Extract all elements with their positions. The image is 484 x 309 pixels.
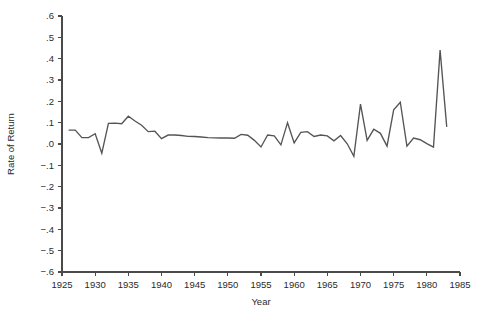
y-axis-tick-label: −.4 [41, 224, 54, 235]
y-axis-tick-label: .2 [46, 96, 54, 107]
x-axis-tick-label: 1930 [85, 279, 106, 290]
x-axis-tick-label: 1950 [217, 279, 238, 290]
y-axis-tick-label: .4 [46, 53, 54, 64]
x-axis-tick-label: 1980 [416, 279, 437, 290]
x-axis-tick-label: 1955 [250, 279, 271, 290]
x-axis-tick-label: 1940 [151, 279, 172, 290]
x-axis-tick-label: 1925 [51, 279, 72, 290]
series-line-0 [69, 50, 447, 156]
x-axis: 1925193019351940194519501955196019651970… [51, 272, 470, 290]
x-axis-tick-label: 1945 [184, 279, 205, 290]
x-axis-tick-label: 1975 [383, 279, 404, 290]
y-axis-tick-label: −.2 [41, 181, 54, 192]
y-axis-tick-label: −.3 [41, 202, 54, 213]
x-axis-tick-label: 1935 [118, 279, 139, 290]
x-axis-tick-label: 1970 [350, 279, 371, 290]
y-axis-tick-label: .6 [46, 10, 54, 21]
x-axis-title: Year [251, 296, 270, 307]
data-series-group [69, 50, 447, 156]
y-axis: .6.5.4.3.2.1.0−.1−.2−.3−.4−.5−.6 [41, 10, 62, 277]
y-axis-tick-label: .5 [46, 32, 54, 43]
y-axis-tick-label: .0 [46, 138, 54, 149]
x-axis-tick-label: 1985 [449, 279, 470, 290]
x-axis-tick-label: 1960 [284, 279, 305, 290]
y-axis-title: Rate of Return [5, 113, 16, 175]
y-axis-tick-label: −.6 [41, 266, 54, 277]
y-axis-tick-label: .1 [46, 117, 54, 128]
chart-container: .6.5.4.3.2.1.0−.1−.2−.3−.4−.5−.6 1925193… [0, 0, 484, 309]
rate-of-return-line-chart: .6.5.4.3.2.1.0−.1−.2−.3−.4−.5−.6 1925193… [0, 0, 484, 309]
y-axis-tick-label: −.1 [41, 160, 54, 171]
x-axis-tick-label: 1965 [317, 279, 338, 290]
y-axis-tick-label: .3 [46, 74, 54, 85]
y-axis-tick-label: −.5 [41, 245, 54, 256]
